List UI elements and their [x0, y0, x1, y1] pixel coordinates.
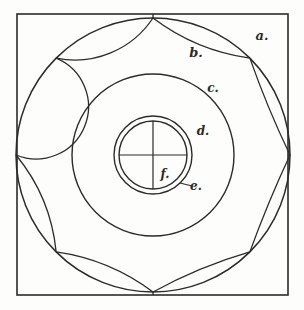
label-c: c. — [207, 81, 218, 95]
petal-arc — [16, 155, 56, 252]
label-b: b. — [189, 45, 203, 60]
petal-arc — [56, 18, 153, 60]
label-d: d. — [197, 124, 210, 138]
petal-arc — [250, 58, 290, 155]
label-e: e. — [190, 179, 202, 193]
rosette-diagram-figure: a.b.c.d.f.e. — [0, 0, 304, 310]
petal-arc — [250, 155, 290, 252]
petal-arc — [153, 252, 250, 292]
label-f: f. — [160, 167, 170, 181]
part-labels: a.b.c.d.f.e. — [160, 28, 269, 193]
petal-arc — [16, 58, 88, 159]
label-a: a. — [256, 28, 269, 43]
diagram-canvas: a.b.c.d.f.e. — [0, 0, 304, 310]
petal-arc — [56, 252, 153, 292]
